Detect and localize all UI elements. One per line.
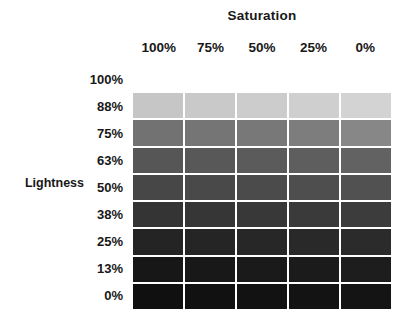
swatch-cell-l0-s75 <box>185 284 235 309</box>
swatch-cell-l38-s75 <box>185 202 235 227</box>
swatch-row-63pct <box>133 148 391 175</box>
swatch-cell-l75-s0 <box>341 120 391 145</box>
swatch-cell-l100-s75 <box>185 66 235 91</box>
swatch-cell-l0-s50 <box>237 284 287 309</box>
saturation-tick-0: 100% <box>133 38 185 58</box>
saturation-tick-2: 50% <box>236 38 288 58</box>
swatch-cell-l75-s75 <box>185 120 235 145</box>
swatch-grid <box>133 66 391 309</box>
lightness-tick-0: 100% <box>84 66 128 93</box>
swatch-cell-l63-s100 <box>133 148 183 173</box>
swatch-cell-l25-s0 <box>341 229 391 254</box>
swatch-cell-l13-s50 <box>237 257 287 282</box>
swatch-cell-l100-s50 <box>237 66 287 91</box>
swatch-cell-l75-s50 <box>237 120 287 145</box>
swatch-cell-l25-s25 <box>289 229 339 254</box>
swatch-cell-l75-s100 <box>133 120 183 145</box>
swatch-cell-l63-s75 <box>185 148 235 173</box>
lightness-tick-6: 25% <box>84 228 128 255</box>
swatch-cell-l88-s75 <box>185 93 235 118</box>
swatch-row-25pct <box>133 229 391 256</box>
swatch-cell-l63-s50 <box>237 148 287 173</box>
swatch-cell-l100-s100 <box>133 66 183 91</box>
saturation-tick-4: 0% <box>339 38 391 58</box>
swatch-cell-l88-s25 <box>289 93 339 118</box>
lightness-tick-8: 0% <box>84 282 128 309</box>
swatch-cell-l38-s0 <box>341 202 391 227</box>
swatch-cell-l88-s100 <box>133 93 183 118</box>
lightness-tick-1: 88% <box>84 93 128 120</box>
swatch-cell-l75-s25 <box>289 120 339 145</box>
lightness-tick-labels: 100%88%75%63%50%38%25%13%0% <box>84 66 128 309</box>
lightness-axis-title: Lightness <box>8 176 84 190</box>
swatch-cell-l38-s100 <box>133 202 183 227</box>
saturation-tick-labels: 100%75%50%25%0% <box>133 38 391 58</box>
swatch-cell-l63-s25 <box>289 148 339 173</box>
swatch-cell-l13-s0 <box>341 257 391 282</box>
swatch-cell-l0-s100 <box>133 284 183 309</box>
lightness-tick-4: 50% <box>84 174 128 201</box>
swatch-cell-l38-s50 <box>237 202 287 227</box>
swatch-cell-l50-s75 <box>185 175 235 200</box>
saturation-axis-title: Saturation <box>133 8 391 23</box>
swatch-cell-l0-s25 <box>289 284 339 309</box>
saturation-tick-1: 75% <box>185 38 237 58</box>
swatch-cell-l88-s50 <box>237 93 287 118</box>
swatch-cell-l25-s50 <box>237 229 287 254</box>
lightness-tick-7: 13% <box>84 255 128 282</box>
swatch-row-50pct <box>133 175 391 202</box>
swatch-cell-l100-s25 <box>289 66 339 91</box>
lightness-tick-2: 75% <box>84 120 128 147</box>
swatch-row-100pct <box>133 66 391 93</box>
lightness-tick-3: 63% <box>84 147 128 174</box>
swatch-cell-l25-s100 <box>133 229 183 254</box>
swatch-row-38pct <box>133 202 391 229</box>
swatch-cell-l0-s0 <box>341 284 391 309</box>
swatch-cell-l63-s0 <box>341 148 391 173</box>
swatch-row-75pct <box>133 120 391 147</box>
swatch-cell-l50-s0 <box>341 175 391 200</box>
hsl-swatch-figure: Saturation 100%75%50%25%0% Lightness 100… <box>0 0 397 317</box>
swatch-cell-l88-s0 <box>341 93 391 118</box>
swatch-row-0pct <box>133 284 391 309</box>
swatch-row-88pct <box>133 93 391 120</box>
lightness-tick-5: 38% <box>84 201 128 228</box>
swatch-cell-l13-s100 <box>133 257 183 282</box>
swatch-cell-l100-s0 <box>341 66 391 91</box>
swatch-cell-l50-s50 <box>237 175 287 200</box>
swatch-cell-l50-s25 <box>289 175 339 200</box>
swatch-cell-l50-s100 <box>133 175 183 200</box>
saturation-tick-3: 25% <box>288 38 340 58</box>
swatch-cell-l38-s25 <box>289 202 339 227</box>
swatch-cell-l25-s75 <box>185 229 235 254</box>
swatch-cell-l13-s75 <box>185 257 235 282</box>
swatch-cell-l13-s25 <box>289 257 339 282</box>
swatch-row-13pct <box>133 257 391 284</box>
